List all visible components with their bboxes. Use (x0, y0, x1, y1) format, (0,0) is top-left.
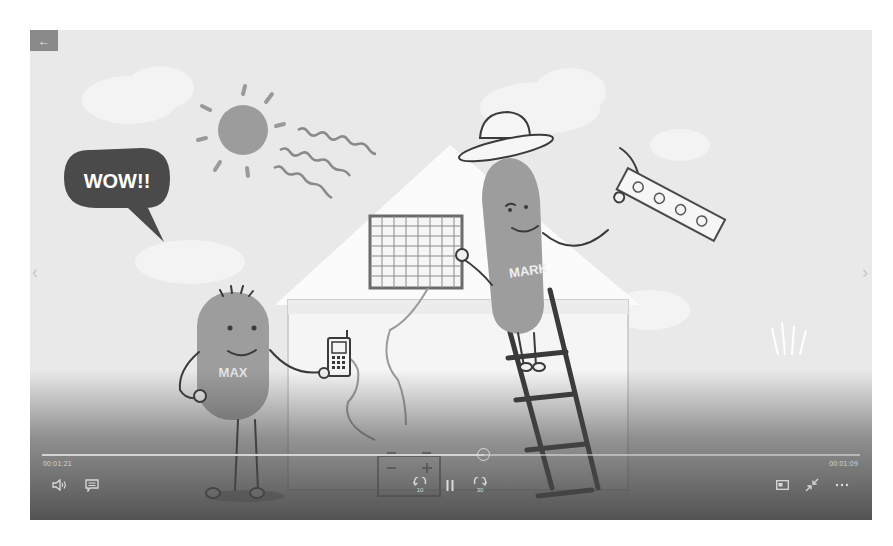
sun (198, 86, 284, 176)
skip-back-seconds: 10 (417, 487, 424, 493)
chevron-left-icon: ‹ (32, 262, 38, 282)
previous-button[interactable]: ‹ (32, 262, 38, 283)
mini-view-button[interactable] (772, 477, 792, 493)
mini-view-icon (776, 480, 789, 490)
seek-bar[interactable] (42, 448, 860, 462)
skip-forward-30-icon: 30 (472, 477, 488, 493)
pause-button[interactable] (442, 477, 458, 493)
skip-back-10-icon: 10 (412, 477, 428, 493)
video-player[interactable]: WOW!! (30, 30, 872, 520)
back-button[interactable]: ← (30, 30, 58, 51)
captions-button[interactable] (82, 477, 102, 493)
power-strip (612, 168, 726, 251)
video-frame: WOW!! (30, 30, 872, 520)
seek-thumb[interactable] (477, 448, 490, 461)
chevron-right-icon: › (862, 262, 868, 282)
grass (772, 322, 806, 355)
arrow-left-icon: ← (38, 34, 50, 48)
solar-panel (370, 216, 462, 288)
speech-bubble-text: WOW!! (84, 170, 151, 192)
captions-icon (85, 479, 99, 492)
character-max-label: MAX (219, 365, 248, 380)
seek-progress (42, 454, 484, 456)
pause-icon (446, 480, 454, 491)
more-button[interactable] (832, 477, 852, 493)
next-button[interactable]: › (862, 262, 868, 283)
exit-fullscreen-button[interactable] (802, 477, 822, 493)
remaining-time: 00:01:09 (829, 460, 858, 467)
skip-forward-button[interactable]: 30 (470, 477, 490, 493)
sun-rays (274, 128, 376, 198)
elapsed-time: 00:01:21 (43, 460, 72, 467)
volume-icon (52, 479, 68, 491)
skip-forward-seconds: 30 (477, 487, 484, 493)
speech-bubble (64, 148, 170, 242)
exit-fullscreen-icon (805, 478, 819, 492)
volume-button[interactable] (50, 477, 70, 493)
skip-back-button[interactable]: 10 (410, 477, 430, 493)
more-icon (835, 483, 849, 487)
